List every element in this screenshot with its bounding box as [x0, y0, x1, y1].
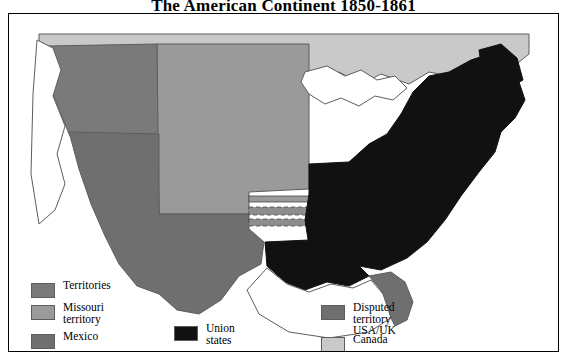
- legend-label-canada: Canada: [353, 334, 387, 346]
- legend-swatch-canada: [321, 337, 345, 352]
- legend-label-territories: Territories: [63, 280, 111, 292]
- map-frame: Territories Missouri territory Mexico Un…: [8, 13, 559, 352]
- region-missouri-territory: [157, 44, 309, 214]
- map-page: The American Continent 1850-1861: [0, 0, 567, 360]
- legend-swatch-territories: [31, 283, 55, 298]
- legend-label-mexico: Mexico: [63, 331, 98, 343]
- legend-swatch-mexico: [31, 334, 55, 349]
- legend-swatch-disputed-territory: [321, 305, 345, 320]
- legend-swatch-union-states: [174, 326, 198, 341]
- legend-label-missouri-territory: Missouri territory: [63, 302, 104, 325]
- legend-swatch-missouri-territory: [31, 305, 55, 320]
- legend-label-disputed-territory: Disputed territory USA/UK: [353, 302, 396, 337]
- pacific-inlet: [31, 40, 65, 224]
- legend-label-union-states: Union states: [206, 323, 235, 346]
- map-legend: Territories Missouri territory Mexico Un…: [31, 282, 536, 344]
